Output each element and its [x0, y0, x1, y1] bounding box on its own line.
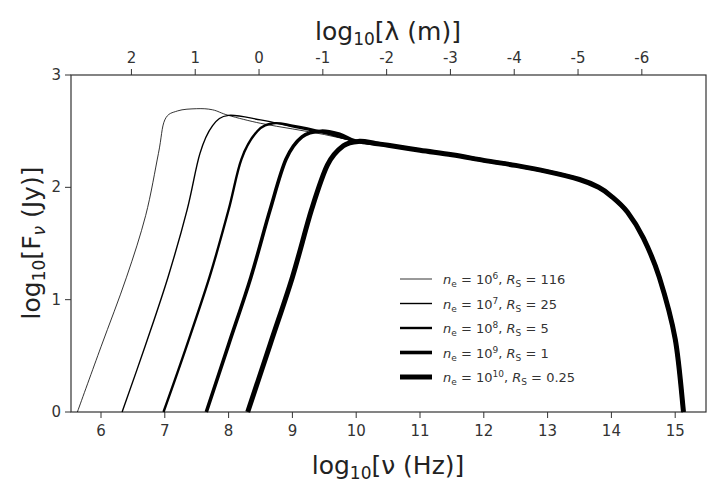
- x2-tick-label: 1: [190, 49, 200, 67]
- x-tick-label: 12: [474, 422, 493, 440]
- legend-label: ne = 108, RS = 5: [443, 320, 549, 338]
- y-axis-left: 0123: [51, 66, 71, 421]
- legend-label: ne = 106, RS = 116: [443, 271, 565, 289]
- x-tick-label: 10: [347, 422, 366, 440]
- x-tick-label: 15: [666, 422, 685, 440]
- x-tick-label: 14: [602, 422, 621, 440]
- x2-tick-label: -3: [443, 49, 458, 67]
- sed-chart: 6789101112131415 0123 210-1-2-3-4-5-6 ne…: [0, 0, 717, 485]
- x2-tick-label: -1: [315, 49, 330, 67]
- legend-label: ne = 1010, RS = 0.25: [443, 369, 575, 387]
- x2-tick-label: -5: [571, 49, 586, 67]
- x-tick-label: 6: [96, 422, 106, 440]
- x2-tick-label: -6: [634, 49, 649, 67]
- legend-entry: ne = 108, RS = 5: [400, 320, 549, 338]
- series-line-1: [77, 109, 683, 412]
- legend-entry: ne = 109, RS = 1: [400, 345, 549, 363]
- x-tick-label: 8: [224, 422, 234, 440]
- y-tick-label: 3: [51, 66, 61, 84]
- legend-entry: ne = 1010, RS = 0.25: [400, 369, 575, 387]
- series-lines: [77, 109, 683, 412]
- series-line-2: [122, 115, 683, 412]
- series-line-3: [164, 123, 684, 412]
- x-tick-label: 9: [288, 422, 298, 440]
- legend-label: ne = 109, RS = 1: [443, 345, 549, 363]
- legend-label: ne = 107, RS = 25: [443, 296, 557, 314]
- x-axis-title: log10[ν (Hz)]: [312, 451, 465, 483]
- legend-entry: ne = 107, RS = 25: [400, 296, 557, 314]
- x-axis-top: 210-1-2-3-4-5-6: [127, 49, 650, 75]
- plot-area-border: [71, 75, 706, 412]
- y-tick-label: 2: [51, 178, 61, 196]
- x-tick-label: 13: [538, 422, 557, 440]
- plot-frame: [71, 75, 706, 412]
- x2-tick-label: 0: [254, 49, 264, 67]
- x-axis-bottom: 6789101112131415: [96, 412, 685, 440]
- x2-tick-label: -2: [379, 49, 394, 67]
- y-tick-label: 1: [51, 291, 61, 309]
- legend-entry: ne = 106, RS = 116: [400, 271, 565, 289]
- y-tick-label: 0: [51, 403, 61, 421]
- x2-tick-label: 2: [127, 49, 137, 67]
- x2-tick-label: -4: [507, 49, 522, 67]
- x-tick-label: 7: [160, 422, 170, 440]
- y-axis-title: log10[Fν (Jy)]: [17, 167, 49, 320]
- x2-axis-title: log10[λ (m)]: [315, 17, 461, 49]
- legend: ne = 106, RS = 116ne = 107, RS = 25ne = …: [400, 271, 575, 387]
- x-tick-label: 11: [410, 422, 429, 440]
